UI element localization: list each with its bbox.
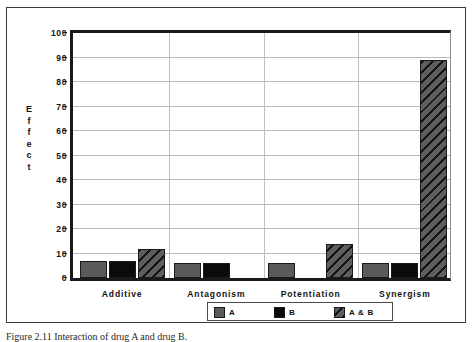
bar-synergism-ab	[420, 60, 447, 278]
y-axis-ticks: 0102030405060708090100	[35, 30, 67, 281]
y-axis-tick-mark	[63, 32, 67, 33]
gridline	[73, 204, 450, 205]
bar-synergism-b	[391, 263, 418, 278]
y-axis-tick-mark	[63, 81, 67, 82]
gridline	[73, 253, 450, 254]
vertical-gridline	[169, 33, 170, 278]
legend-swatch-diagonal-hatch	[334, 307, 345, 318]
figure-caption: Figure 2.11 Interaction of drug A and dr…	[6, 331, 475, 342]
legend-label: A & B	[349, 308, 374, 317]
chart-legend: ABA & B	[207, 302, 393, 321]
bar-antagonism-a	[174, 263, 201, 278]
gridline	[73, 106, 450, 107]
y-axis-tick-label: 30	[37, 201, 67, 209]
vertical-gridline	[358, 33, 359, 278]
legend-swatch-solid-black	[274, 307, 285, 318]
legend-item-ab: A & B	[334, 306, 374, 319]
y-axis-tick-mark	[63, 277, 67, 278]
chart-frame: E f f e c t 0102030405060708090100 Addit…	[6, 7, 466, 323]
y-axis-tick-mark	[63, 130, 67, 131]
gridline	[73, 130, 450, 131]
y-axis-tick-label: 0	[37, 274, 67, 282]
gridline	[73, 155, 450, 156]
legend-label: B	[289, 308, 295, 317]
y-axis-tick-mark	[63, 57, 67, 58]
legend-item-b: B	[274, 306, 295, 319]
bar-additive-ab	[138, 249, 165, 278]
y-axis-tick-label: 100	[37, 29, 67, 37]
y-axis-tick-label: 40	[37, 176, 67, 184]
bar-antagonism-b	[203, 263, 230, 278]
gridline	[73, 228, 450, 229]
vertical-gridline	[264, 33, 265, 278]
legend-item-a: A	[214, 306, 235, 319]
gridline	[73, 81, 450, 82]
bar-synergism-a	[362, 263, 389, 278]
y-axis-tick-label: 90	[37, 54, 67, 62]
y-axis-tick-label: 20	[37, 225, 67, 233]
y-axis-tick-mark	[63, 155, 67, 156]
x-axis-category-label: Synergism	[348, 289, 461, 299]
y-axis-tick-label: 70	[37, 103, 67, 111]
y-axis-tick-mark	[63, 253, 67, 254]
bar-potentiation-a	[268, 263, 295, 278]
gridline	[73, 57, 450, 58]
legend-swatch-solid-gray	[214, 307, 225, 318]
y-axis-tick-mark	[63, 106, 67, 107]
y-axis-tick-label: 60	[37, 127, 67, 135]
bar-additive-a	[80, 261, 107, 278]
y-axis-tick-label: 10	[37, 250, 67, 258]
bar-additive-b	[109, 261, 136, 278]
y-axis-tick-label: 50	[37, 152, 67, 160]
legend-label: A	[229, 308, 235, 317]
gridline	[73, 179, 450, 180]
y-axis-tick-mark	[63, 228, 67, 229]
y-axis-tick-mark	[63, 204, 67, 205]
bar-potentiation-ab	[326, 244, 353, 278]
y-axis-tick-label: 80	[37, 78, 67, 86]
plot-area: AdditiveAntagonismPotentiationSynergism	[70, 30, 451, 281]
y-axis-tick-mark	[63, 179, 67, 180]
